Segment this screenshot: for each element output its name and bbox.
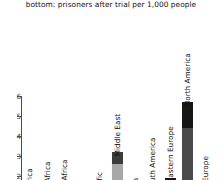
- plot-area: 65432 Central AfricaE. and S. AfricaNort…: [0, 0, 222, 180]
- bar-segment-after-trial: [182, 128, 193, 180]
- category-label: Eastern Europe: [167, 126, 174, 180]
- category-label: Middle East: [114, 114, 121, 156]
- category-label: South America: [149, 137, 156, 180]
- category-label: E. and S. Africa: [43, 162, 50, 180]
- chart-figure: top: prisoners before trial per 1,000 pe…: [0, 0, 222, 180]
- category-label: Western Europe: [202, 156, 209, 180]
- category-label: North America: [184, 53, 191, 106]
- category-label: East Asia: [131, 178, 138, 180]
- category-label: Northern Africa: [61, 160, 68, 180]
- category-label: Central Africa: [26, 169, 33, 180]
- bar-segment-after-trial: [112, 164, 123, 180]
- category-label: Asia-Pacific: [96, 172, 103, 180]
- bar-north-america: [182, 102, 193, 180]
